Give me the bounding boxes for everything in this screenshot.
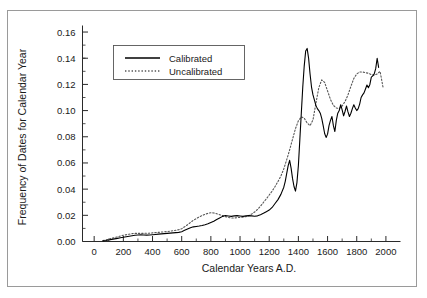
x-tick-label: 600 <box>174 246 190 257</box>
legend-label-uncalibrated: Uncalibrated <box>169 66 222 77</box>
chart-canvas: 0200400600800100012001400160018002000 0.… <box>0 0 427 298</box>
y-tick-label: 0.16 <box>57 27 76 38</box>
x-tick-label: 1600 <box>317 246 338 257</box>
y-tick-label: 0.02 <box>57 210 76 221</box>
x-tick-label: 1800 <box>346 246 367 257</box>
series-line-uncalibrated <box>103 71 383 240</box>
x-tick-label: 800 <box>203 246 219 257</box>
figure-root: 0200400600800100012001400160018002000 0.… <box>0 0 427 298</box>
x-tick-label: 1200 <box>259 246 280 257</box>
y-tick-label: 0.14 <box>57 53 76 64</box>
x-tick-marks <box>94 236 386 242</box>
x-tick-label: 400 <box>145 246 161 257</box>
y-tick-label: 0.12 <box>57 79 76 90</box>
legend-label-calibrated: Calibrated <box>169 53 212 64</box>
chart-legend: Calibrated Uncalibrated <box>114 46 245 80</box>
x-tick-label: 1000 <box>229 246 250 257</box>
y-tick-label: 0.06 <box>57 157 76 168</box>
x-tick-labels: 0200400600800100012001400160018002000 <box>92 246 397 257</box>
y-axis-title: Frequency of Dates for Calendar Year <box>16 48 28 225</box>
y-tick-label: 0.10 <box>57 105 76 116</box>
y-tick-label: 0.04 <box>57 184 76 195</box>
y-tick-marks <box>83 32 89 241</box>
y-tick-labels: 0.000.020.040.060.080.100.120.140.16 <box>57 27 76 247</box>
x-tick-label: 2000 <box>375 246 396 257</box>
x-tick-label: 0 <box>92 246 97 257</box>
y-tick-label: 0.00 <box>57 236 76 247</box>
x-axis-title: Calendar Years A.D. <box>202 262 297 274</box>
x-tick-label: 200 <box>115 246 131 257</box>
x-tick-label: 1400 <box>288 246 309 257</box>
y-tick-label: 0.08 <box>57 131 76 142</box>
